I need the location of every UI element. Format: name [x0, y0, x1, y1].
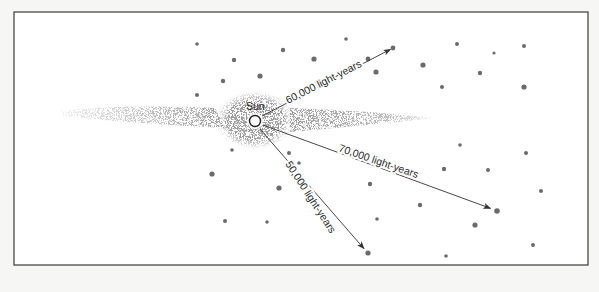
globular-cluster-dot	[344, 37, 348, 41]
globular-cluster-dot	[276, 185, 281, 190]
globular-cluster-dot	[539, 189, 543, 193]
globular-cluster-dot	[373, 69, 378, 74]
globular-cluster-dot	[521, 84, 526, 89]
globular-cluster-dot	[455, 42, 459, 46]
globular-cluster-dot	[492, 51, 495, 54]
globular-cluster-dot	[444, 254, 448, 258]
globular-cluster-dot	[420, 62, 425, 67]
globular-cluster-dot	[375, 217, 379, 221]
globular-cluster-dot	[418, 203, 422, 207]
globular-cluster-dot	[265, 220, 269, 224]
globular-cluster-dot	[287, 151, 291, 155]
globular-cluster-dot	[223, 219, 227, 223]
globular-cluster-dot	[365, 250, 370, 255]
globular-cluster-dot	[442, 167, 446, 171]
globular-cluster-dot	[494, 208, 500, 214]
globular-cluster-dot	[195, 93, 199, 97]
sun-icon	[250, 116, 261, 127]
globular-cluster-dot	[257, 73, 262, 78]
globular-cluster-dot	[524, 151, 528, 155]
globular-cluster-dot	[522, 44, 526, 48]
globular-cluster-dot	[472, 222, 477, 227]
globular-cluster-dot	[281, 48, 285, 52]
globular-cluster-dot	[440, 85, 444, 89]
globular-cluster-dot	[486, 168, 490, 172]
globular-cluster-dot	[209, 171, 214, 176]
globular-cluster-dot	[478, 71, 482, 75]
sun-label: Sun	[246, 100, 265, 112]
globular-cluster-dot	[230, 148, 234, 152]
globular-cluster-dot	[531, 243, 535, 247]
globular-cluster-dot	[221, 79, 225, 83]
globular-cluster-dot	[368, 182, 372, 186]
globular-cluster-dot	[195, 42, 199, 46]
globular-cluster-dot	[391, 46, 396, 51]
milky-way-diagram: Sun 60,000 light-years60,000 light-years…	[0, 0, 599, 292]
globular-cluster-dot	[232, 58, 236, 62]
globular-cluster-dot	[458, 143, 462, 147]
globular-cluster-dot	[311, 56, 316, 61]
